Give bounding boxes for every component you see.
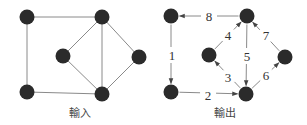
directed-edge-arrow <box>215 61 224 70</box>
node <box>278 50 293 65</box>
node <box>202 48 217 63</box>
edge <box>102 17 139 57</box>
edge-order-label: 4 <box>225 28 232 43</box>
node <box>56 49 71 64</box>
node <box>20 10 35 25</box>
input-nodes <box>20 10 147 102</box>
edge-order-label: 5 <box>244 49 251 64</box>
output-nodes <box>164 9 293 102</box>
output-caption: 輸出 <box>214 106 236 120</box>
edge-order-label: 8 <box>206 9 213 24</box>
node <box>164 85 179 100</box>
edge <box>63 56 102 94</box>
edge-order-label: 6 <box>263 68 270 83</box>
edge <box>27 92 102 94</box>
directed-edge-arrow <box>253 22 260 30</box>
output-graph: 12345678 輸出 <box>164 9 293 120</box>
directed-edge-arrow <box>272 63 279 70</box>
node <box>20 85 35 100</box>
node <box>95 87 110 102</box>
input-caption: 輸入 <box>69 106 91 120</box>
directed-edge-arrow <box>216 93 237 94</box>
node <box>164 9 179 24</box>
edge-order-label: 7 <box>263 28 270 43</box>
node <box>95 10 110 25</box>
edge-segment <box>271 42 280 51</box>
directed-edge-arrow <box>234 22 241 29</box>
node <box>240 9 255 24</box>
edge <box>63 17 102 56</box>
edge-order-label: 2 <box>205 88 212 103</box>
output-edge-labels: 12345678 <box>169 9 270 103</box>
input-graph: 輸入 <box>20 10 147 120</box>
edge <box>102 57 139 94</box>
input-edges <box>27 17 139 94</box>
edge-segment <box>215 41 223 49</box>
node <box>132 50 147 65</box>
graph-figure: 輸入 12345678 輸出 <box>0 0 307 125</box>
edge-segment <box>234 82 240 88</box>
node <box>239 87 254 102</box>
edge-segment <box>252 81 260 89</box>
edge-order-label: 3 <box>225 70 232 85</box>
edge-order-label: 1 <box>169 48 176 63</box>
edge-segment <box>179 92 200 93</box>
